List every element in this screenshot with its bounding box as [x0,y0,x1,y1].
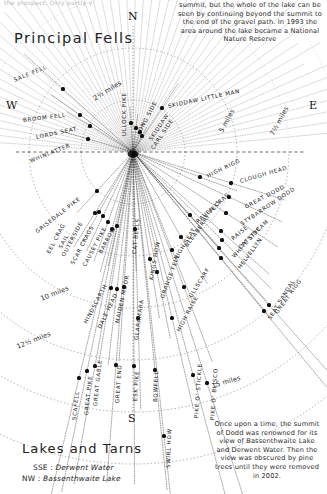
fell-summit-dot [132,364,135,367]
hub-convergence [128,150,139,157]
fell-summit-dot [129,121,132,124]
fell-summit-dot [219,256,222,259]
fell-summit-dot [179,235,182,238]
panorama-diagram-page: the prospect. Only partly v Principal Fe… [0,0,327,494]
fell-summit-dot [191,373,194,376]
fell-summit-dot [88,124,91,127]
cut-off-top-text: the prospect. Only partly v [4,0,92,6]
legend-bearing-sse: SSE : [33,463,53,472]
fell-summit-dot [217,246,220,249]
fell-summit-dot [155,270,158,273]
fell-summit-dot [170,248,173,251]
cardinal-west: W [6,99,17,112]
fell-summit-dot [109,286,112,289]
fell-summit-dot [219,229,222,232]
sight-line [133,152,327,389]
viewpoint-hub-marker [128,150,139,157]
fell-summit-dot [138,130,141,133]
footnote-paragraph: Once upon a time, the summit of Dodd was… [214,420,320,480]
fell-summit-dot [224,211,227,214]
fell-label: ULLOCK PIKE [121,92,127,136]
sight-line-filler [0,37,133,152]
page-title: Principal Fells [14,30,133,46]
fell-label: BOWFELL [152,370,159,402]
legend-lake-sse: Derwent Water [55,463,113,472]
sight-line-filler [0,53,133,152]
fell-summit-dot [262,309,265,312]
fell-summit-dot [160,106,163,109]
legend-row-sse: SSE : Derwent Water [33,463,114,472]
fell-summit-dot [198,175,201,178]
legend-title: Lakes and Tarns [22,441,142,456]
cardinal-south: S [128,412,136,425]
fell-summit-dot [86,137,89,140]
fell-summit-dot [140,134,143,137]
cardinal-east: E [309,99,317,112]
fell-summit-dot [101,214,104,217]
fell-summit-dot [182,285,185,288]
fell-summit-dot [77,376,80,379]
sight-line-filler [0,34,133,152]
fell-summit-dot [61,87,64,90]
legend-row-nw: NW : Bassenthwaite Lake [22,474,121,483]
cardinal-north: N [128,10,138,23]
legend-bearing-nw: NW : [22,474,40,483]
fell-summit-dot [205,381,208,384]
compass-axes [16,26,305,412]
sight-line [133,152,193,409]
fell-summit-dot [229,181,232,184]
sight-line-filler [0,53,133,152]
fell-summit-dot [78,113,81,116]
fell-summit-dot [85,369,88,372]
fell-summit-dot [188,213,191,216]
legend-lake-nw: Bassenthwaite Lake [43,474,121,483]
distance-rings [0,0,327,464]
fell-summit-dot [97,210,100,213]
fell-summit-dot [220,238,223,241]
fell-summit-dot [115,287,118,290]
fell-summit-dot [93,211,96,214]
fell-summit-dot [106,220,109,223]
fell-summit-dot [170,316,173,319]
sight-line [108,152,133,364]
fell-summit-dot [267,303,270,306]
intro-paragraph: summit, but the whole of the lake can be… [176,1,324,44]
fell-summit-dot [95,189,98,192]
